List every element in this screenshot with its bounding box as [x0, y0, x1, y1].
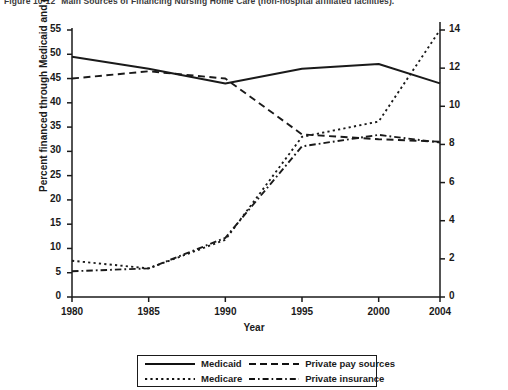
x-axis-tick-label: 1980: [49, 306, 95, 317]
legend-item-medicaid: Medicaid: [138, 356, 242, 371]
x-axis-tick-label: 2004: [417, 306, 463, 317]
y-axis-left-tick-label: 20: [35, 193, 61, 204]
series-line-private-insurance: [72, 135, 440, 271]
y-axis-right-tick-label: 10: [449, 99, 475, 110]
y-axis-right-tick-label: 2: [449, 252, 475, 263]
chart-legend: Medicaid Private pay sources Medicare Pr…: [137, 355, 377, 387]
legend-label: Medicare: [201, 373, 242, 384]
y-axis-left-tick-label: 10: [35, 241, 61, 252]
legend-item-private-pay-sources: Private pay sources: [242, 356, 395, 371]
y-axis-left-tick-label: 0: [35, 290, 61, 301]
legend-label: Private pay sources: [305, 358, 395, 369]
x-axis-tick-label: 1985: [126, 306, 172, 317]
legend-label: Private insurance: [305, 373, 384, 384]
y-axis-right-tick-label: 0: [449, 290, 475, 301]
x-axis-tick-label: 2000: [356, 306, 402, 317]
x-axis-label: Year: [0, 322, 508, 333]
y-axis-right-tick-label: 6: [449, 176, 475, 187]
series-line-medicaid: [72, 57, 440, 84]
chart-series-lines: [72, 30, 440, 271]
y-axis-right-tick-label: 14: [449, 23, 475, 34]
legend-label: Medicaid: [201, 358, 242, 369]
y-axis-left-label: Percent financed through Medicaid and pr…: [38, 12, 50, 192]
y-axis-left-tick-label: 5: [35, 266, 61, 277]
legend-swatch-solid: [144, 359, 196, 369]
y-axis-right-tick-label: 12: [449, 61, 475, 72]
y-axis-right-tick-label: 4: [449, 214, 475, 225]
legend-swatch-dotted: [144, 374, 196, 384]
legend-item-private-insurance: Private insurance: [242, 371, 395, 386]
x-axis-tick-label: 1995: [279, 306, 325, 317]
legend-swatch-dashdot: [248, 374, 300, 384]
legend-item-medicare: Medicare: [138, 371, 242, 386]
legend-swatch-dashed: [248, 359, 300, 369]
y-axis-right-tick-label: 8: [449, 137, 475, 148]
figure-container: Figure 10-12Main Sources of Financing Nu…: [0, 0, 508, 390]
x-axis-tick-label: 1990: [202, 306, 248, 317]
series-line-private-pay-sources: [72, 71, 440, 141]
y-axis-left-tick-label: 15: [35, 217, 61, 228]
